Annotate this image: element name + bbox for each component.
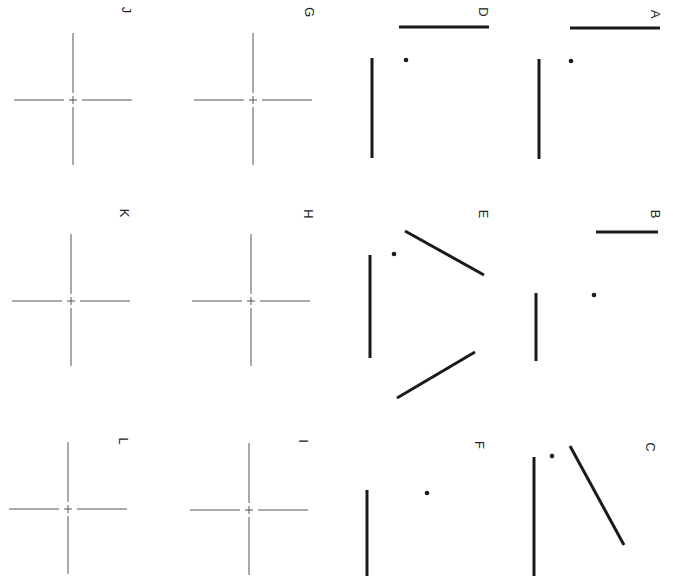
panel-label: C [643,442,658,451]
panel-label: H [301,209,316,218]
panel-g: G [194,7,317,165]
panel-d: D [372,7,491,158]
panel-e: E [370,210,491,398]
panel-label: E [476,210,491,219]
fixation-dot [392,252,397,257]
panel-label: D [476,7,491,16]
panel-i: I [190,439,311,575]
panel-label: L [116,437,131,444]
panel-label: I [296,439,311,443]
panel-label: B [648,210,663,219]
panel-label: G [302,7,317,17]
panel-label: F [472,441,487,449]
panel-l: L [9,437,131,574]
fixation-dot [550,454,555,459]
panel-label: J [119,7,134,14]
panel-j: J [14,7,134,165]
stimulus-line [397,352,475,398]
fixation-dot [569,59,574,64]
diagram-canvas: ABCDEFGHIJKL [0,0,673,576]
fixation-dot [404,58,409,63]
panel-b: B [536,210,663,361]
panel-h: H [192,209,316,366]
stimulus-line [405,231,484,275]
panel-a: A [539,10,663,159]
panel-k: K [12,209,132,366]
panel-label: A [648,10,663,19]
panel-label: K [117,209,132,218]
fixation-dot [425,491,430,496]
stimulus-line [570,446,624,545]
fixation-dot [592,293,597,298]
panel-f: F [367,441,487,576]
panel-c: C [534,442,658,576]
